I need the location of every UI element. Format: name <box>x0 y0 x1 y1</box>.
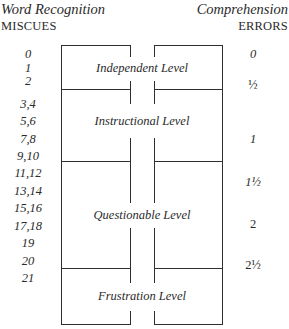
inner-border <box>130 81 131 104</box>
miscue-value: 1 <box>8 61 48 75</box>
miscue-value: 21 <box>8 271 48 285</box>
miscue-value: 15,16 <box>8 201 48 215</box>
inner-border <box>154 45 155 57</box>
left-outer-border <box>61 45 62 325</box>
divider-line <box>61 45 131 46</box>
divider-line <box>61 268 131 269</box>
miscue-value: 11,12 <box>8 166 48 180</box>
error-value: 2½ <box>233 258 273 272</box>
divider-line <box>154 324 223 325</box>
divider-line <box>154 268 223 269</box>
miscue-value: 9,10 <box>8 149 48 163</box>
miscue-value: 2 <box>8 74 48 88</box>
error-value: 1 <box>233 132 273 146</box>
level-label-independent: Independent Level <box>61 61 223 75</box>
divider-line <box>154 161 223 162</box>
divider-line <box>154 89 223 90</box>
error-value: 1½ <box>233 175 273 189</box>
miscue-value: 5,6 <box>8 114 48 128</box>
miscue-value: 20 <box>8 254 48 268</box>
inner-border <box>154 228 155 283</box>
inner-border <box>154 81 155 104</box>
error-value: 0 <box>233 47 273 61</box>
error-value: 2 <box>233 217 273 231</box>
miscue-value: 3,4 <box>8 97 48 111</box>
inner-border <box>154 138 155 203</box>
inner-border <box>130 228 131 283</box>
error-value: ½ <box>233 78 273 92</box>
divider-line <box>61 161 131 162</box>
inner-border <box>130 45 131 57</box>
level-label-frustration: Frustration Level <box>61 289 223 303</box>
miscue-value: 13,14 <box>8 184 48 198</box>
divider-line <box>61 324 131 325</box>
miscue-value: 7,8 <box>8 132 48 146</box>
divider-line <box>61 89 131 90</box>
divider-line <box>154 45 223 46</box>
right-outer-border <box>222 45 223 325</box>
level-label-questionable: Questionable Level <box>61 208 223 222</box>
level-label-instructional: Instructional Level <box>61 114 223 128</box>
miscue-value: 19 <box>8 236 48 250</box>
comprehension-title: Comprehension <box>197 1 288 18</box>
inner-border <box>154 311 155 325</box>
inner-border <box>130 138 131 203</box>
inner-border <box>130 311 131 325</box>
miscue-value: 17,18 <box>8 219 48 233</box>
miscues-subtitle: MISCUES <box>1 19 57 34</box>
miscue-value: 0 <box>8 47 48 61</box>
word-recognition-title: Word Recognition <box>1 1 105 18</box>
errors-subtitle: ERRORS <box>238 19 288 34</box>
